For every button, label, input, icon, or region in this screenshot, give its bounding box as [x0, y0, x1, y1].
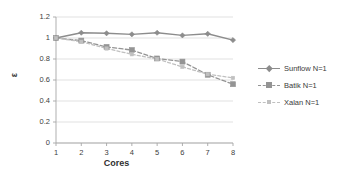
data-point: [231, 82, 236, 87]
data-point: [206, 73, 209, 76]
legend-item[interactable]: Xalan N=1: [258, 94, 338, 111]
legend-label: Xalan N=1: [284, 98, 319, 107]
data-point: [155, 30, 160, 35]
data-point: [54, 36, 57, 39]
chart-legend: Sunflow N=1Batik N=1Xalan N=1: [258, 60, 338, 111]
data-point: [180, 59, 185, 64]
legend-marker-icon: [266, 65, 272, 71]
legend-label: Sunflow N=1: [284, 64, 327, 73]
legend-key-icon: [258, 97, 280, 108]
y-tick-label: 0.6: [24, 75, 50, 84]
legend-label: Batik N=1: [284, 81, 317, 90]
legend-item[interactable]: Batik N=1: [258, 77, 338, 94]
data-point: [80, 40, 83, 43]
y-tick-label: 0.2: [24, 117, 50, 126]
data-point: [104, 31, 109, 36]
chart-container: 1.210.80.60.40.20 12345678 Cores ε Sunfl…: [0, 0, 341, 181]
data-point: [79, 30, 84, 35]
x-tick-label: 8: [226, 148, 240, 157]
data-point: [231, 76, 234, 79]
x-tick-label: 4: [125, 148, 139, 157]
x-axis-title: Cores: [0, 158, 233, 168]
legend-marker-icon: [266, 82, 272, 88]
data-point: [129, 32, 134, 37]
x-tick-label: 7: [201, 148, 215, 157]
x-tick-label: 3: [100, 148, 114, 157]
x-tick-label: 6: [175, 148, 189, 157]
x-tick-label: 2: [74, 148, 88, 157]
x-tick-label: 1: [49, 148, 63, 157]
data-point: [205, 31, 210, 36]
legend-key-icon: [258, 80, 280, 91]
y-tick-label: 0.8: [24, 54, 50, 63]
y-tick-label: 0: [24, 138, 50, 147]
series-line-2: [56, 38, 233, 78]
legend-key-icon: [258, 63, 280, 74]
series-markers-group: [53, 30, 235, 87]
data-point: [180, 33, 185, 38]
y-axis-title: ε: [9, 73, 19, 77]
data-point: [181, 65, 184, 68]
legend-item[interactable]: Sunflow N=1: [258, 60, 338, 77]
y-tick-label: 0.4: [24, 96, 50, 105]
tick-marks-group: [53, 17, 233, 146]
y-tick-label: 1.2: [24, 12, 50, 21]
data-point: [105, 47, 108, 50]
data-point: [130, 53, 133, 56]
x-tick-label: 5: [150, 148, 164, 157]
y-tick-label: 1: [24, 33, 50, 42]
gridlines-group: [56, 17, 233, 143]
legend-marker-icon: [267, 100, 271, 104]
data-point: [155, 57, 158, 60]
data-point: [129, 48, 134, 53]
